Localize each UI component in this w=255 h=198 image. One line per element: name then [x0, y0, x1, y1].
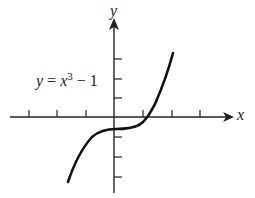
equation-rest: − 1 [73, 72, 98, 89]
function-graph [0, 0, 255, 198]
equation-label: y = x3 − 1 [36, 70, 98, 90]
equation-equals: = [43, 72, 60, 89]
y-ticks [114, 59, 122, 177]
x-axis-label: x [237, 106, 244, 124]
y-axis-label: y [110, 2, 117, 20]
